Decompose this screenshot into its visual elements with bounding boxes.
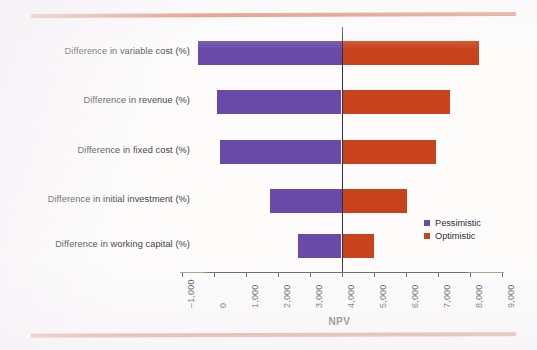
plot-area: Difference in variable cost (%) Differen… bbox=[0, 0, 537, 350]
bar-optimistic bbox=[342, 234, 374, 258]
legend-item-optimistic: Optimistic bbox=[424, 229, 481, 242]
x-axis-tick-label: 9,000 bbox=[506, 284, 516, 308]
x-axis-tick bbox=[182, 273, 183, 277]
bar-pessimistic bbox=[220, 140, 342, 164]
x-axis-tick-label: 5,000 bbox=[378, 284, 388, 308]
baseline-reference-line bbox=[342, 27, 343, 272]
x-axis-tick-label: 2,000 bbox=[282, 284, 292, 308]
legend: Pessimistic Optimistic bbox=[424, 216, 481, 242]
x-axis-tick bbox=[278, 273, 279, 277]
x-axis-tick bbox=[438, 273, 439, 277]
bar-pessimistic bbox=[270, 189, 342, 213]
bar-optimistic bbox=[342, 189, 408, 213]
category-label-fixed-cost: Difference in fixed cost (%) bbox=[78, 145, 190, 155]
legend-swatch-pessimistic-icon bbox=[424, 220, 430, 226]
x-axis-tick bbox=[246, 273, 247, 277]
x-axis-tick bbox=[310, 273, 311, 277]
x-axis-tick-label: 0 bbox=[218, 303, 228, 308]
bar-pessimistic bbox=[217, 90, 342, 114]
bar-pessimistic bbox=[198, 41, 342, 65]
category-label-revenue: Difference in revenue (%) bbox=[83, 95, 190, 105]
category-label-working-capital: Difference in working capital (%) bbox=[55, 239, 190, 249]
category-label-initial-investment: Difference in initial investment (%) bbox=[48, 194, 190, 204]
legend-item-pessimistic: Pessimistic bbox=[424, 216, 481, 229]
legend-label-pessimistic: Pessimistic bbox=[435, 218, 481, 228]
x-axis-tick bbox=[342, 273, 343, 277]
x-axis-tick-label: 7,000 bbox=[442, 284, 452, 308]
x-axis-tick-label: 3,000 bbox=[314, 284, 324, 308]
x-axis-tick-label: 1,000 bbox=[250, 284, 260, 308]
x-axis-tick bbox=[214, 273, 215, 277]
x-axis-tick bbox=[406, 273, 407, 277]
x-axis-tick bbox=[374, 273, 375, 277]
x-axis-tick bbox=[470, 273, 471, 277]
x-axis-tick-label: 8,000 bbox=[474, 284, 484, 308]
legend-swatch-optimistic-icon bbox=[424, 233, 430, 239]
x-axis-title: NPV bbox=[329, 316, 351, 327]
tornado-chart-figure: Difference in variable cost (%) Differen… bbox=[0, 0, 537, 350]
category-label-variable-cost: Difference in variable cost (%) bbox=[65, 46, 190, 56]
bar-optimistic bbox=[342, 41, 480, 65]
x-axis-tick-label: 4,000 bbox=[346, 284, 356, 308]
x-axis-tick-label: –1,000 bbox=[186, 279, 196, 308]
bar-pessimistic bbox=[298, 234, 341, 258]
bar-optimistic bbox=[342, 140, 436, 164]
legend-label-optimistic: Optimistic bbox=[435, 231, 475, 241]
x-axis-tick bbox=[502, 273, 503, 277]
x-axis-tick-label: 6,000 bbox=[410, 284, 420, 308]
bar-optimistic bbox=[342, 90, 451, 114]
